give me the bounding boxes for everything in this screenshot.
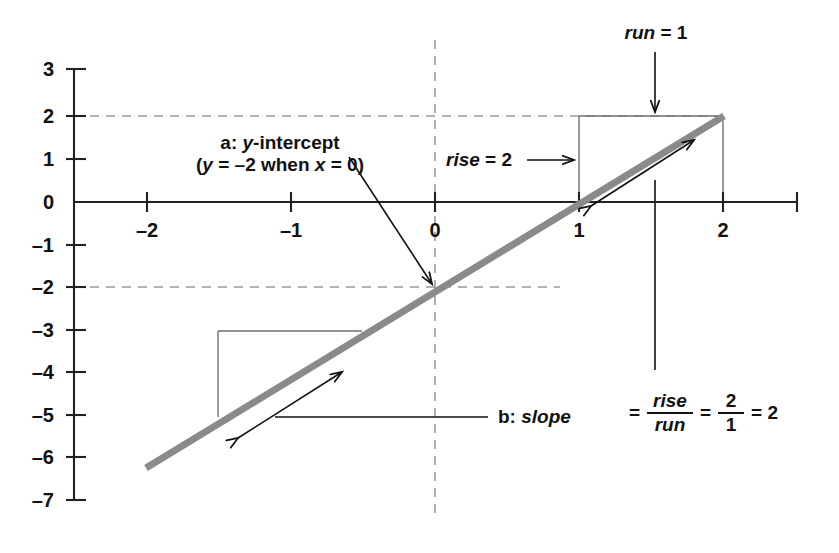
x-tick-label-0: 0: [405, 219, 465, 242]
fraction-denominator-run: run: [649, 414, 692, 436]
run-annotation: run = 1: [596, 22, 716, 44]
y-tick-label-2: 2: [10, 105, 54, 128]
y-intercept-variable-y: y: [243, 132, 254, 153]
y-intercept-annotation-line1: a: y-intercept: [150, 132, 410, 154]
equation-result: = 2: [751, 402, 778, 424]
y-tick-label-minus-5: –5: [4, 404, 54, 427]
variable-y: y: [202, 154, 213, 175]
equation-equals-1: =: [629, 402, 640, 424]
run-word: run: [625, 22, 656, 43]
paren-close: = 0): [325, 154, 364, 175]
x-axis: [74, 192, 797, 212]
x-tick-label-minus-1: –1: [261, 219, 321, 242]
variable-x: x: [315, 154, 326, 175]
y-tick-label-minus-6: –6: [4, 446, 54, 469]
rise-word: rise: [446, 149, 480, 170]
x-tick-label-2: 2: [693, 219, 753, 242]
fraction-numerator-2: 2: [720, 390, 743, 412]
y-tick-label-minus-4: –4: [4, 361, 54, 384]
y-intercept-suffix: -intercept: [253, 132, 340, 153]
y-tick-label-3: 3: [10, 58, 54, 81]
y-intercept-annotation: a: y-intercept (y = –2 when x = 0): [150, 132, 410, 176]
y-tick-label-minus-2: –2: [4, 276, 54, 299]
fraction-two-over-one: 2 1: [718, 390, 744, 436]
dashed-guide-lines: [74, 40, 726, 520]
y-tick-label-1: 1: [10, 148, 54, 171]
rise-annotation: rise = 2: [446, 149, 512, 171]
slope-intercept-figure: 3 2 1 0 –1 –2 –3 –4 –5 –6 –7 –2 –1 0 1 2…: [0, 0, 839, 553]
y-intercept-condition-mid: = –2 when: [213, 154, 315, 175]
fraction-denominator-1: 1: [720, 414, 743, 436]
slope-prefix: b:: [498, 406, 521, 427]
x-tick-label-minus-2: –2: [117, 219, 177, 242]
x-tick-label-1: 1: [549, 219, 609, 242]
rise-value: = 2: [480, 149, 512, 170]
y-tick-label-minus-7: –7: [4, 489, 54, 512]
run-value: = 1: [655, 22, 687, 43]
fraction-rise-over-run: rise run: [647, 390, 693, 436]
slope-equation: = rise run = 2 1 = 2: [622, 390, 785, 436]
graph-canvas: [0, 0, 839, 553]
slope-annotation: b: slope: [498, 406, 571, 428]
slope-word: slope: [521, 406, 571, 427]
equation-equals-2: =: [700, 402, 711, 424]
y-axis: [66, 69, 86, 500]
fraction-numerator-rise: rise: [647, 390, 693, 412]
y-tick-label-0: 0: [10, 191, 54, 214]
y-intercept-annotation-line2: (y = –2 when x = 0): [150, 154, 410, 176]
y-intercept-prefix: a:: [220, 132, 242, 153]
y-tick-label-minus-1: –1: [4, 234, 54, 257]
y-tick-label-minus-3: –3: [4, 319, 54, 342]
slope-direction-arrow-upper: [591, 140, 694, 206]
